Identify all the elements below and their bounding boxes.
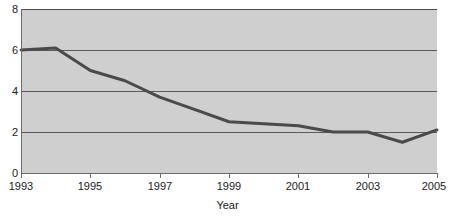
chart-figure: 8 6 4 2 0 1993 1995 1997 1999 2001 2003 …	[0, 0, 455, 219]
chart-title-clipped	[0, 0, 455, 5]
x-tick-1993	[21, 174, 22, 178]
x-tick-1995	[90, 174, 91, 178]
x-tick-label-2003: 2003	[346, 180, 390, 192]
x-tick-2003	[368, 174, 369, 178]
x-tick-label-2005: 2005	[412, 180, 455, 192]
x-tick-label-2001: 2001	[276, 180, 320, 192]
plot-area	[21, 9, 437, 173]
x-tick-label-1999: 1999	[207, 180, 251, 192]
x-axis-title: Year	[0, 199, 455, 211]
x-tick-label-1997: 1997	[138, 180, 182, 192]
x-tick-label-1995: 1995	[68, 180, 112, 192]
y-tick-label-8: 8	[0, 4, 18, 15]
data-series-line	[21, 9, 437, 173]
y-tick-label-6: 6	[0, 45, 18, 56]
y-tick-label-2: 2	[0, 127, 18, 138]
x-tick-1999	[229, 174, 230, 178]
y-tick-label-4: 4	[0, 86, 18, 97]
x-tick-label-1993: 1993	[0, 180, 43, 192]
y-tick-label-0: 0	[0, 168, 18, 179]
x-tick-2001	[298, 174, 299, 178]
x-tick-1997	[160, 174, 161, 178]
x-tick-2005	[437, 174, 438, 178]
y-axis-line	[21, 9, 22, 174]
